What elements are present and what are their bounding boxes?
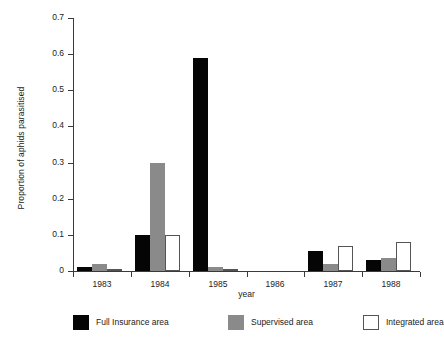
x-tick	[247, 272, 248, 277]
chart-legend: Full Insurance areaSupervised areaIntegr…	[73, 313, 431, 333]
legend-swatch-icon	[73, 315, 89, 330]
bar	[150, 163, 165, 271]
y-axis-line	[73, 18, 74, 272]
y-tick-label: 0.3	[52, 157, 64, 168]
y-tick-label: 0	[59, 265, 64, 276]
legend-item: Full Insurance area	[73, 313, 169, 331]
x-tick	[362, 272, 363, 277]
x-tick	[420, 272, 421, 277]
legend-item: Integrated area	[363, 313, 444, 331]
bar	[366, 260, 381, 271]
bar	[323, 264, 338, 271]
y-tick: 0.7	[68, 18, 73, 19]
y-tick-label: 0.5	[52, 84, 64, 95]
bar	[381, 258, 396, 271]
y-axis-title: Proportion of aphids parasitised	[14, 18, 28, 278]
plot-area: 00.10.20.30.40.50.60.7 19831984198519861…	[73, 18, 420, 272]
bar	[208, 267, 223, 271]
x-axis-title: year	[73, 289, 420, 299]
y-tick-label: 0.1	[52, 229, 64, 240]
x-tick	[73, 272, 74, 277]
y-tick: 0.5	[68, 90, 73, 91]
y-tick: 0.1	[68, 235, 73, 236]
legend-label: Full Insurance area	[96, 317, 169, 327]
bar	[223, 269, 238, 271]
y-tick-label: 0.7	[52, 12, 64, 23]
x-tick	[304, 272, 305, 277]
y-tick-label: 0.6	[52, 48, 64, 59]
y-tick: 0.4	[68, 126, 73, 127]
x-tick	[131, 272, 132, 277]
y-tick: 0.2	[68, 199, 73, 200]
bar	[165, 235, 180, 271]
y-tick: 0.3	[68, 163, 73, 164]
bar	[396, 242, 411, 271]
legend-item: Supervised area	[228, 313, 313, 331]
bar	[77, 267, 92, 271]
legend-label: Supervised area	[251, 317, 313, 327]
legend-swatch-icon	[228, 315, 244, 330]
legend-label: Integrated area	[386, 317, 444, 327]
bar	[135, 235, 150, 271]
bar	[308, 251, 323, 271]
y-tick: 0.6	[68, 54, 73, 55]
bar	[92, 264, 107, 271]
x-tick	[189, 272, 190, 277]
y-tick-label: 0.2	[52, 193, 64, 204]
bar	[193, 58, 208, 271]
bar	[338, 246, 353, 271]
y-tick-label: 0.4	[52, 120, 64, 131]
legend-swatch-icon	[363, 315, 379, 330]
bar	[107, 269, 122, 271]
